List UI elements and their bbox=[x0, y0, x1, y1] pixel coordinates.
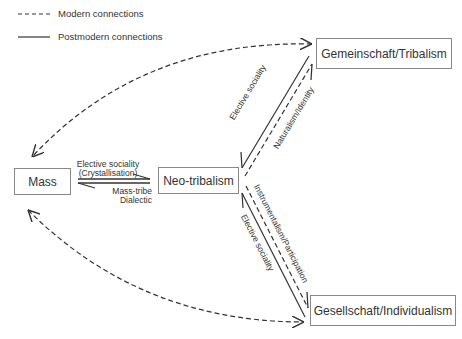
node-gemeinschaft: Gemeinschaft/Tribalism bbox=[316, 38, 452, 69]
label-mass-tribe-dialectic: Mass-tribe Dialectic bbox=[92, 187, 152, 205]
label-line: Dialectic bbox=[92, 196, 152, 205]
node-gesellschaft: Gesellschaft/Individualism bbox=[310, 295, 456, 326]
legend-modern-label: Modern connections bbox=[58, 8, 144, 19]
node-mass: Mass bbox=[14, 168, 71, 195]
modern-mass-gesellschaft-edge bbox=[28, 210, 304, 322]
label-line: (Crystallisation) bbox=[68, 169, 148, 178]
modern-gemeinschaft-mass-edge bbox=[32, 44, 312, 157]
node-neo-tribalism: Neo-tribalism bbox=[158, 167, 239, 194]
legend-postmodern-label: Postmodern connections bbox=[58, 31, 163, 42]
label-elective-sociality-mass: Elective sociality (Crystallisation) bbox=[68, 160, 148, 178]
